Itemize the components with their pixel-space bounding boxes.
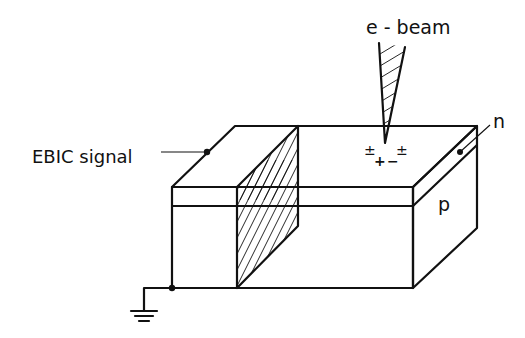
beam-label: e - beam [366,16,451,38]
top-face [172,126,477,187]
junction-plane [180,40,352,320]
n-layer-annotation: n [457,110,505,155]
signal-dot [204,149,210,155]
ground-contact [131,285,175,321]
n-dot [457,149,463,155]
charge-minus: − [387,153,399,169]
n-label: n [493,110,505,132]
signal-contact: EBIC signal [32,146,210,167]
front-face [172,187,413,288]
charge-plus: + [374,153,386,169]
ground-icon [131,311,157,321]
charge-carriers: ± ± + − [364,142,408,169]
signal-label: EBIC signal [32,146,133,167]
sample-block [172,126,477,288]
electron-beam [370,36,410,144]
ebic-diagram: ± ± + − e - beam EBIC signal n p [0,0,525,338]
ground-wire [144,288,172,310]
p-label: p [438,193,450,215]
